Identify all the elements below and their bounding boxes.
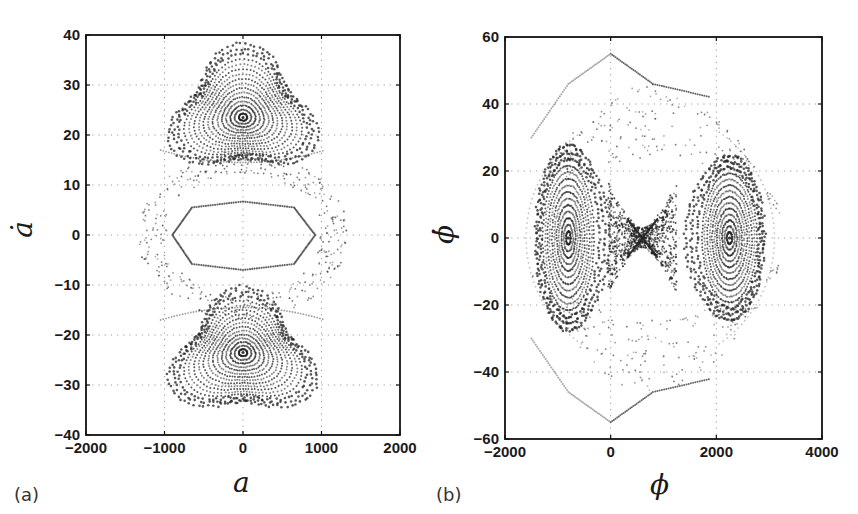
y-tick-label: 40 bbox=[36, 26, 80, 43]
y-tick-label: 0 bbox=[36, 226, 80, 243]
x-tick-label: 2000 bbox=[370, 439, 430, 456]
y-tick-label: −10 bbox=[36, 276, 80, 293]
y-tick-label: 10 bbox=[36, 176, 80, 193]
panel-b-axes bbox=[505, 37, 822, 439]
y-tick-label: 60 bbox=[455, 28, 499, 45]
y-tick-label: 0 bbox=[455, 229, 499, 246]
x-tick-label: 1000 bbox=[292, 439, 352, 456]
y-tick-label: −40 bbox=[455, 363, 499, 380]
y-tick-label: 30 bbox=[36, 76, 80, 93]
x-tick-label: −2000 bbox=[56, 439, 116, 456]
y-tick-label: 20 bbox=[455, 162, 499, 179]
panel-a-axes bbox=[86, 35, 400, 435]
y-tick-label: −20 bbox=[455, 296, 499, 313]
figure: 403020100−10−20−30−40 −2000−100001000200… bbox=[0, 0, 858, 514]
plot-canvas bbox=[0, 0, 858, 514]
y-tick-label: 40 bbox=[455, 95, 499, 112]
panel-a-y-axis-title: ȧ bbox=[6, 221, 39, 238]
y-tick-label: 20 bbox=[36, 126, 80, 143]
x-tick-label: 0 bbox=[581, 443, 641, 460]
panel-b-y-axis-title: ϕ̇ bbox=[427, 225, 460, 244]
panel-b-tag: (b) bbox=[436, 484, 461, 505]
x-tick-label: 2000 bbox=[686, 443, 746, 460]
panel-b-orbits bbox=[525, 53, 780, 424]
panel-a-tag: (a) bbox=[14, 484, 39, 505]
x-tick-label: 0 bbox=[213, 439, 273, 456]
panel-a-orbits bbox=[139, 41, 347, 408]
y-tick-label: −30 bbox=[36, 376, 80, 393]
x-tick-label: −2000 bbox=[475, 443, 535, 460]
panel-a-x-axis-title: a bbox=[233, 466, 250, 499]
x-tick-label: 4000 bbox=[792, 443, 852, 460]
panel-b-x-axis-title: ϕ bbox=[650, 468, 669, 501]
y-tick-label: −20 bbox=[36, 326, 80, 343]
x-tick-label: −1000 bbox=[135, 439, 195, 456]
